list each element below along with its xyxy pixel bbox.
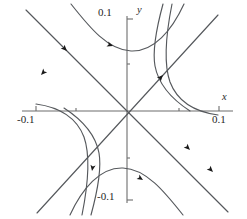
- x-axis-tick-label-positive: 0.1: [212, 113, 226, 125]
- x-axis-label: x: [222, 91, 227, 102]
- arrowhead-lower-inner: [89, 165, 95, 172]
- phase-portrait-plot: [0, 0, 247, 219]
- x-axis-tick-label-negative: -0.1: [17, 113, 34, 125]
- trajectory-upper-inner: [154, 4, 190, 111]
- phase-portrait-figure: 0.1 y -0.1 -0.1 0.1 x: [0, 0, 247, 219]
- arrowhead-stable-lower-near: [184, 144, 192, 152]
- y-axis-tick-label-negative: -0.1: [97, 190, 114, 202]
- trajectory-lower-inner: [64, 108, 100, 215]
- arrowhead-lower-outer: [137, 175, 145, 183]
- axis-group: [22, 16, 233, 203]
- arrowhead-stable-lower-far: [207, 166, 215, 174]
- y-axis-label: y: [137, 4, 142, 15]
- y-axis-tick-label-positive: 0.1: [98, 6, 112, 18]
- arrowhead-unstable-lower: [39, 69, 47, 77]
